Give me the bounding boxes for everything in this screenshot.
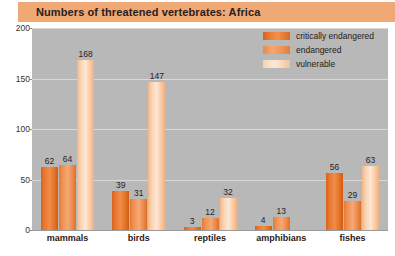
bar[interactable] [255, 226, 272, 230]
bar[interactable] [130, 199, 147, 230]
bar-value-label: 29 [348, 190, 357, 200]
bar-value-label: 147 [150, 71, 164, 81]
legend-item[interactable]: endangered [263, 45, 374, 55]
legend-item[interactable]: vulnerable [263, 59, 374, 69]
bar[interactable] [273, 217, 290, 230]
bar[interactable] [184, 227, 201, 230]
bar[interactable] [202, 218, 219, 230]
bar-group: 6264168 [41, 28, 94, 230]
bar-value-label: 168 [79, 49, 93, 59]
bar[interactable] [220, 198, 237, 230]
y-axis-tick-label: 50 [4, 175, 30, 185]
bar-value-label: 56 [330, 162, 339, 172]
chart-container: Numbers of threatened vertebrates: Afric… [0, 0, 395, 256]
bar-value-label: 12 [205, 207, 214, 217]
legend-item-label: critically endangered [296, 31, 374, 41]
legend-item-label: endangered [296, 45, 341, 55]
bar[interactable] [344, 201, 361, 230]
x-axis-category-label: birds [128, 233, 150, 243]
legend-swatch-icon [263, 46, 290, 54]
bar-value-label: 64 [63, 154, 72, 164]
chart-title-bar: Numbers of threatened vertebrates: Afric… [18, 2, 395, 22]
bar[interactable] [148, 82, 165, 230]
bar[interactable] [326, 173, 343, 230]
y-axis-tick-label: 100 [4, 124, 30, 134]
y-axis-tick-label: 150 [4, 74, 30, 84]
bar-value-label: 4 [261, 215, 266, 225]
bar[interactable] [77, 60, 94, 230]
bar-value-label: 39 [116, 180, 125, 190]
legend-item-label: vulnerable [296, 59, 335, 69]
x-axis-labels: mammalsbirdsreptilesamphibiansfishes [32, 233, 388, 253]
x-axis-category-label: reptiles [194, 233, 226, 243]
legend-swatch-icon [263, 32, 290, 40]
legend-item[interactable]: critically endangered [263, 31, 374, 41]
chart-legend: critically endangeredendangeredvulnerabl… [263, 31, 374, 69]
page-title: Numbers of threatened vertebrates: Afric… [36, 6, 260, 18]
legend-swatch-icon [263, 60, 290, 68]
bar[interactable] [112, 191, 129, 230]
bar-value-label: 63 [366, 155, 375, 165]
bar-value-label: 13 [276, 206, 285, 216]
x-axis-category-label: fishes [339, 233, 365, 243]
bar-value-label: 3 [190, 216, 195, 226]
axis-baseline [32, 230, 388, 231]
y-axis-tick-label: 200 [4, 23, 30, 33]
bar[interactable] [362, 166, 379, 230]
bar-value-label: 31 [134, 188, 143, 198]
bar[interactable] [41, 167, 58, 230]
x-axis-category-label: mammals [47, 233, 89, 243]
bar-group: 31232 [184, 28, 237, 230]
y-axis: 050100150200 [0, 28, 30, 230]
bar[interactable] [59, 165, 76, 230]
y-axis-tick-label: 0 [4, 225, 30, 235]
bar-group: 3931147 [112, 28, 165, 230]
x-axis-category-label: amphibians [256, 233, 306, 243]
bar-value-label: 62 [45, 156, 54, 166]
bar-value-label: 32 [223, 187, 232, 197]
